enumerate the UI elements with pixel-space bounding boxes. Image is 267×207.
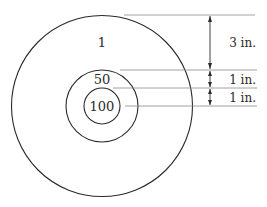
zone-label-inner: 100 — [90, 99, 115, 114]
dimension-label-outer-band: 3 in. — [229, 36, 256, 50]
zone-label-outer: 1 — [98, 35, 106, 50]
dimension-arrow-inner-radius — [208, 89, 212, 105]
dimension-arrow-middle-band — [208, 71, 212, 87]
zone-label-middle: 50 — [94, 72, 111, 87]
target-diagram: 1 50 100 3 in. 1 in. 1 in. — [0, 0, 267, 207]
dimension-label-inner-radius: 1 in. — [229, 91, 256, 105]
dimension-label-middle-band: 1 in. — [229, 73, 256, 87]
dimension-arrow-outer-band — [208, 16, 212, 69]
